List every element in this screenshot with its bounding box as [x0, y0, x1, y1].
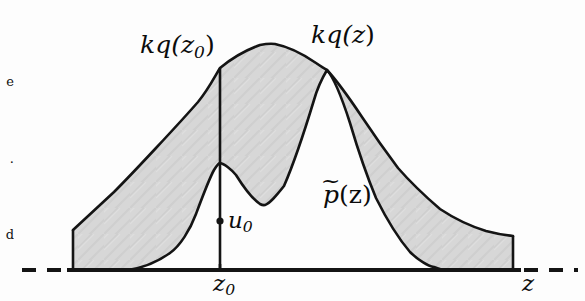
label-kq-z0-subscript: 0	[194, 42, 205, 62]
label-p-tilde-z: p~(z)	[323, 182, 372, 207]
label-u0-subscript: 0	[243, 217, 253, 236]
label-kq-z0-close: )	[205, 30, 215, 59]
label-kq-z0: kq(z0)	[140, 32, 215, 61]
rejection-sampling-plot	[0, 0, 585, 301]
tilde-accent-icon: ~	[321, 171, 341, 192]
figure-root: e . d - - - s e f	[0, 0, 585, 301]
label-kq-z-base: kq(z	[311, 20, 365, 49]
label-kq-z-close: )	[365, 20, 375, 49]
label-p-tilde-glyph: p~	[323, 182, 339, 207]
label-u0-base: u	[228, 207, 243, 233]
label-z0-subscript: 0	[225, 280, 235, 299]
label-z0-base: z	[213, 270, 225, 296]
shaded-rejection-region	[73, 44, 513, 270]
label-axis-z0: z0	[213, 272, 235, 298]
label-kq-z: kq(z)	[311, 22, 375, 47]
label-z-base: z	[522, 270, 534, 296]
label-u0: u0	[228, 209, 253, 235]
u0-sample-marker	[216, 217, 223, 224]
label-p-tilde-args: (z)	[339, 180, 372, 209]
label-kq-z0-base: kq(z	[140, 30, 194, 59]
label-axis-z: z	[522, 272, 534, 295]
